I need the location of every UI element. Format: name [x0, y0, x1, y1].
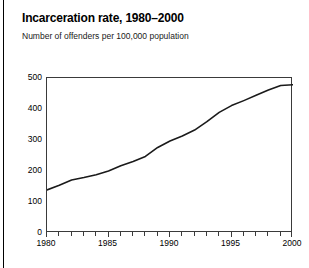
- x-tick-mark: [255, 232, 256, 236]
- x-tick-mark: [291, 232, 292, 237]
- x-tick-label: 1995: [221, 238, 240, 248]
- x-tick-label: 2000: [283, 238, 302, 248]
- x-tick-mark: [46, 232, 47, 237]
- x-tick-mark: [206, 232, 207, 236]
- x-tick-mark: [58, 232, 59, 236]
- x-tick-label: 1985: [98, 238, 117, 248]
- y-tick-label: 500: [0, 73, 42, 82]
- x-tick-mark: [231, 232, 232, 237]
- y-tick-label: 300: [0, 135, 42, 144]
- x-tick-mark: [194, 232, 195, 236]
- chart-figure: Incarceration rate, 1980–2000 Number of …: [0, 0, 309, 268]
- x-tick-mark: [181, 232, 182, 236]
- x-tick-mark: [243, 232, 244, 236]
- chart-title: Incarceration rate, 1980–2000: [22, 11, 184, 25]
- x-tick-mark: [157, 232, 158, 236]
- x-tick-mark: [120, 232, 121, 236]
- x-tick-mark: [71, 232, 72, 236]
- y-axis: 0100200300400500: [0, 70, 42, 240]
- x-tick-mark: [144, 232, 145, 236]
- y-tick-label: 0: [0, 228, 42, 237]
- x-tick-mark: [280, 232, 281, 236]
- x-tick-label: 1990: [160, 238, 179, 248]
- y-tick-label: 200: [0, 166, 42, 175]
- incarceration-rate-line: [47, 85, 293, 190]
- x-axis-labels: 19801985199019952000: [0, 238, 309, 252]
- x-tick-mark: [267, 232, 268, 236]
- x-tick-mark: [108, 232, 109, 237]
- data-line-svg: [47, 78, 293, 233]
- y-tick-label: 400: [0, 104, 42, 113]
- x-tick-mark: [169, 232, 170, 237]
- x-tick-mark: [218, 232, 219, 236]
- x-tick-mark: [95, 232, 96, 236]
- x-tick-mark: [83, 232, 84, 236]
- plot-area: [46, 77, 292, 232]
- x-axis-ticks: [46, 232, 292, 237]
- x-tick-label: 1980: [37, 238, 56, 248]
- y-tick-label: 100: [0, 197, 42, 206]
- chart-subtitle: Number of offenders per 100,000 populati…: [22, 31, 189, 41]
- x-tick-mark: [132, 232, 133, 236]
